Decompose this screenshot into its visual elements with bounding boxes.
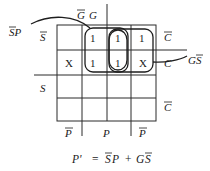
svg-text:C: C [164,101,172,113]
group-label-g-sbar: GS [188,54,203,66]
right-label-c-bar-1: C [164,31,172,43]
equation-plus: + [125,153,132,165]
cell-r1-c1: 1 [90,57,96,69]
cell-r0-c3: 1 [139,32,145,44]
equation-equals: = [92,153,99,165]
svg-text:GS: GS [188,54,202,66]
bottom-label-p-bar-2: P [138,127,147,139]
row-label-s: S [40,82,46,94]
group-label-sbar-p: SP [9,26,22,38]
svg-text:G: G [77,9,85,21]
column-label-g-bar: G [77,9,85,21]
svg-text:S: S [40,31,46,43]
svg-text:C: C [164,31,172,43]
right-label-c: C [164,57,172,69]
bottom-label-p: P [102,127,110,139]
cell-r1-c0: X [65,57,73,69]
svg-text:P: P [64,127,72,139]
right-label-c-bar-2: C [164,101,172,113]
karnaugh-map-diagram: G G S S C C C P P P 1 1 1 X 1 1 X SP [0,0,210,171]
simplified-equation: P' = S P + G S [71,153,152,165]
svg-text:P: P [138,127,146,139]
row-label-s-bar: S [40,31,47,43]
svg-text:SP: SP [9,26,22,38]
bottom-label-p-bar-1: P [64,127,73,139]
cell-r1-c3: X [139,57,147,69]
equation-term2-g: G [136,153,145,165]
cell-r0-c2: 1 [115,32,121,44]
column-label-g: G [89,9,97,21]
equation-term2-s: S [145,153,151,165]
equation-term1-s: S [105,153,111,165]
equation-term1-p: P [111,153,119,165]
cell-r1-c2: 1 [115,57,121,69]
cell-r0-c1: 1 [90,32,96,44]
equation-lhs: P' [71,153,82,165]
